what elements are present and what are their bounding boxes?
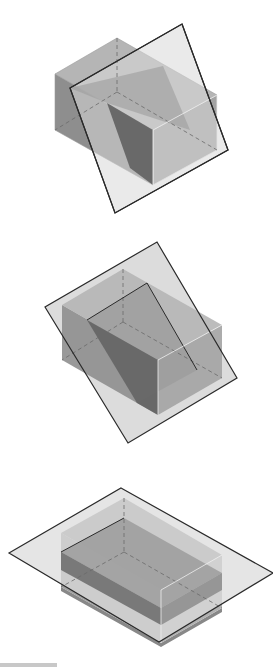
figure-3-diagram — [0, 0, 273, 667]
scale-bar — [0, 663, 57, 667]
